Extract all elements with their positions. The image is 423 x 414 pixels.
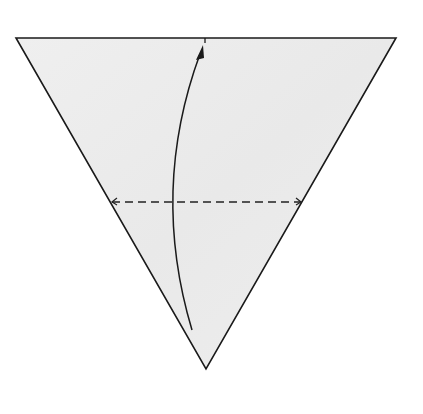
diagram-svg [0,0,423,414]
origami-diagram [0,0,423,414]
paper-triangle [16,38,396,369]
